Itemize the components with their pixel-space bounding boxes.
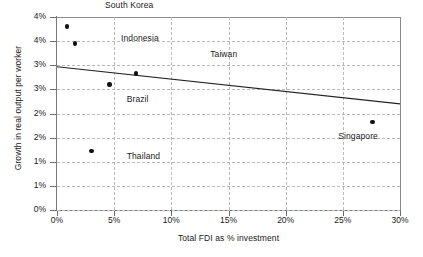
data-point bbox=[89, 149, 93, 153]
data-point-label: South Korea bbox=[105, 0, 153, 10]
y-axis-tick-label: 3% bbox=[2, 59, 46, 69]
y-axis-tick bbox=[50, 186, 56, 187]
x-axis-tick-label: 25% bbox=[321, 215, 365, 225]
data-point bbox=[107, 82, 111, 86]
gridline-vertical bbox=[400, 17, 401, 210]
y-axis-tick bbox=[50, 210, 56, 211]
x-axis-tick-label: 10% bbox=[149, 215, 193, 225]
x-axis-tick-label: 20% bbox=[264, 215, 308, 225]
y-axis-tick bbox=[50, 162, 56, 163]
y-axis-tick bbox=[50, 114, 56, 115]
data-point bbox=[370, 120, 374, 124]
y-axis-tick-label: 2% bbox=[2, 132, 46, 142]
y-axis-tick-label: 0% bbox=[2, 204, 46, 214]
y-axis-tick bbox=[50, 65, 56, 66]
data-point-label: Singapore bbox=[338, 131, 378, 141]
y-axis-tick-label: 3% bbox=[2, 83, 46, 93]
plot-area: South KoreaIndonesiaTaiwanBrazilSingapor… bbox=[57, 17, 400, 210]
y-axis-tick-label: 2% bbox=[2, 108, 46, 118]
data-point-label: Brazil bbox=[127, 94, 149, 104]
data-point-label: Indonesia bbox=[121, 33, 159, 43]
y-axis-tick bbox=[50, 89, 56, 90]
x-axis-tick-label: 0% bbox=[35, 215, 79, 225]
y-axis-tick-label: 1% bbox=[2, 156, 46, 166]
y-axis-tick bbox=[50, 138, 56, 139]
y-axis-tick bbox=[50, 41, 56, 42]
data-point-label: Thailand bbox=[127, 151, 160, 161]
x-axis-tick-label: 5% bbox=[92, 215, 136, 225]
scatter-chart: Growth in real output per worker Total F… bbox=[0, 0, 423, 257]
x-axis-tick-label: 15% bbox=[207, 215, 251, 225]
data-point-label: Taiwan bbox=[210, 49, 237, 59]
y-axis-tick-label: 4% bbox=[2, 35, 46, 45]
trendline bbox=[57, 17, 400, 210]
y-axis-tick-label: 1% bbox=[2, 180, 46, 190]
x-axis-title: Total FDI as % investment bbox=[57, 233, 400, 243]
y-axis-tick bbox=[50, 17, 56, 18]
data-point bbox=[134, 71, 138, 75]
x-axis-tick-label: 30% bbox=[378, 215, 422, 225]
y-axis-tick-label: 4% bbox=[2, 11, 46, 21]
